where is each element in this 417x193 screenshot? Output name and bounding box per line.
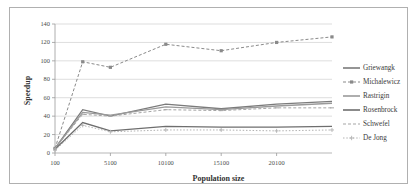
x-tick-label: 15100 xyxy=(201,159,241,166)
x-axis-title: Population size xyxy=(10,174,417,183)
y-axis-title: Speedup xyxy=(23,61,32,121)
legend-label: Rosenbrock xyxy=(361,103,397,117)
legend-item[interactable]: De Jong xyxy=(342,131,417,145)
legend-label: De Jong xyxy=(361,131,387,145)
y-tick-label: 0 xyxy=(28,149,50,156)
gridlines xyxy=(55,24,332,153)
series-line xyxy=(55,123,332,150)
legend-swatch-icon xyxy=(342,90,361,102)
legend-item[interactable]: Schwefel xyxy=(342,117,417,131)
legend-label: Schwefel xyxy=(361,117,390,131)
legend-item[interactable]: Rastrigin xyxy=(342,89,417,103)
chart-figure: 020406080100120140 100510010100151002010… xyxy=(0,0,417,193)
legend-swatch-icon xyxy=(342,132,361,144)
legend-item[interactable]: Michalewicz xyxy=(342,75,417,89)
y-tick-label: 20 xyxy=(28,131,50,138)
x-tick-label: 100 xyxy=(35,159,75,166)
x-tick-label: 5100 xyxy=(90,159,130,166)
legend-swatch-icon xyxy=(342,76,361,88)
chart-legend: GriewangkMichalewiczRastriginRosenbrockS… xyxy=(342,61,417,145)
legend-swatch-icon xyxy=(342,104,361,116)
series-marker xyxy=(275,129,279,133)
series-marker xyxy=(219,128,223,132)
y-tick-label: 140 xyxy=(28,20,50,27)
legend-item[interactable]: Griewangk xyxy=(342,61,417,75)
series-marker xyxy=(164,128,168,132)
x-tick-label: 20100 xyxy=(257,159,297,166)
series-marker xyxy=(81,60,84,63)
legend-swatch-icon xyxy=(342,62,361,74)
series-marker xyxy=(330,35,333,38)
series-marker xyxy=(109,66,112,69)
legend-swatch-icon xyxy=(342,118,361,130)
series-marker xyxy=(330,128,334,132)
series-marker xyxy=(164,43,167,46)
legend-label: Rastrigin xyxy=(361,89,389,103)
x-tick-label: 10100 xyxy=(146,159,186,166)
series-marker xyxy=(220,49,223,52)
legend-item[interactable]: Rosenbrock xyxy=(342,103,417,117)
y-tick-label: 120 xyxy=(28,38,50,45)
series-line xyxy=(55,125,332,150)
series-marker xyxy=(275,41,278,44)
series-line xyxy=(55,37,332,148)
legend-label: Michalewicz xyxy=(361,75,400,89)
legend-label: Griewangk xyxy=(361,61,395,75)
chart-plot-frame: 020406080100120140 100510010100151002010… xyxy=(9,7,408,184)
